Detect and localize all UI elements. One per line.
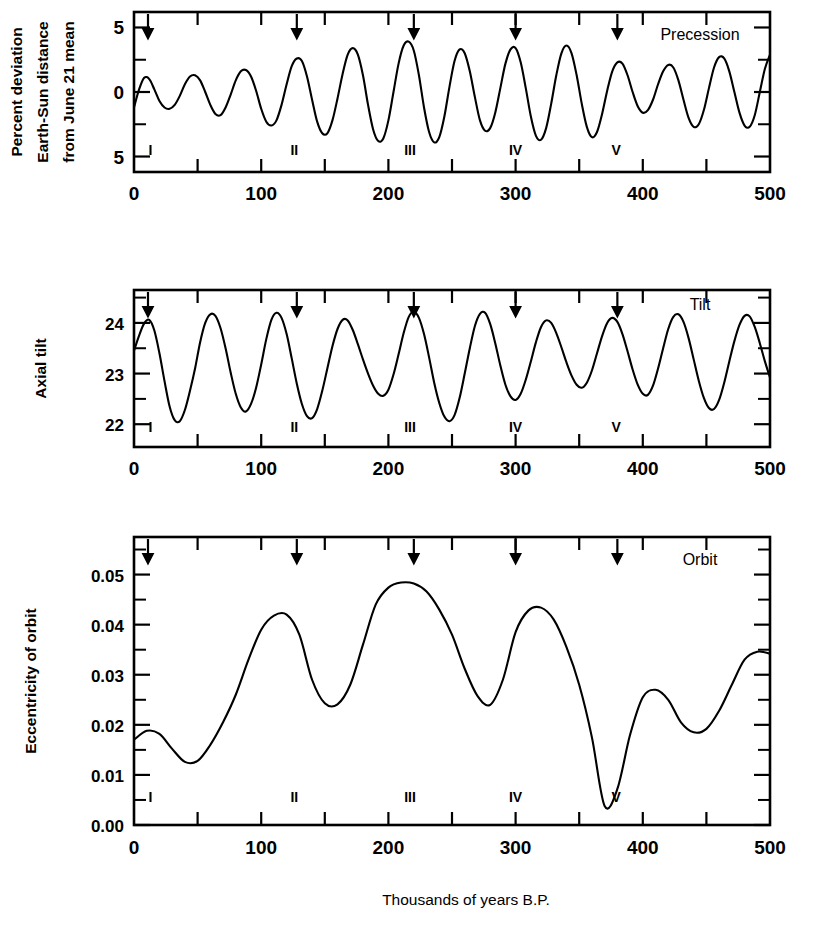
stage-label-tilt-II: II <box>290 419 298 435</box>
stage-arrow-head-precession-1 <box>143 29 152 38</box>
y-axis-title-precession-line-3: from June 21 mean <box>60 21 77 162</box>
stage-label-tilt-V: V <box>611 419 621 435</box>
x-tick-label-precession-0: 0 <box>129 183 140 204</box>
stage-arrow-head-orbit-5 <box>613 554 622 563</box>
y-axis-title-precession-line-2: Earth-Sun distance <box>34 21 51 163</box>
stage-label-tilt-IV: IV <box>509 419 523 435</box>
x-tick-label-tilt-500: 500 <box>754 458 786 479</box>
y-tick-label-precession-1: 0 <box>113 82 124 103</box>
x-tick-label-orbit-300: 300 <box>500 837 532 858</box>
stage-arrow-head-tilt-4 <box>511 307 520 316</box>
data-curve-precession <box>134 41 770 142</box>
y-tick-label-tilt-1: 23 <box>105 366 124 385</box>
stage-arrow-head-precession-5 <box>613 29 622 38</box>
stage-label-orbit-V: V <box>611 789 621 805</box>
stage-label-precession-I: I <box>149 142 153 158</box>
stage-label-precession-V: V <box>611 142 621 158</box>
stage-arrow-head-precession-3 <box>409 29 418 38</box>
x-tick-label-orbit-500: 500 <box>754 837 786 858</box>
stage-label-orbit-III: III <box>404 789 416 805</box>
x-tick-label-tilt-400: 400 <box>627 458 659 479</box>
plot-frame-orbit <box>134 537 770 825</box>
y-tick-label-precession-2: 5 <box>113 147 124 168</box>
y-tick-label-tilt-2: 22 <box>105 416 124 435</box>
x-tick-label-precession-300: 300 <box>500 183 532 204</box>
stage-label-precession-III: III <box>404 142 416 158</box>
y-tick-label-orbit-2: 0.03 <box>91 667 124 686</box>
stage-arrow-head-tilt-1 <box>143 307 152 316</box>
panel-title-precession: Precession <box>660 26 739 43</box>
stage-arrow-head-tilt-5 <box>613 307 622 316</box>
panel-title-orbit: Orbit <box>683 551 718 568</box>
y-axis-title-orbit: Eccentricity of orbit <box>22 608 39 754</box>
stage-arrow-head-orbit-3 <box>409 554 418 563</box>
stage-arrow-head-orbit-2 <box>292 554 301 563</box>
panel-title-tilt: Tilt <box>690 296 711 313</box>
x-tick-label-orbit-0: 0 <box>129 837 140 858</box>
x-tick-label-tilt-300: 300 <box>500 458 532 479</box>
y-tick-label-orbit-3: 0.02 <box>91 717 124 736</box>
stage-label-orbit-II: II <box>290 789 298 805</box>
y-tick-label-orbit-5: 0.00 <box>91 817 124 836</box>
milankovitch-cycles-figure: 0100200300400500505IIIIIIIVVPrecession01… <box>0 0 831 938</box>
x-tick-label-precession-400: 400 <box>627 183 659 204</box>
y-tick-label-precession-0: 5 <box>113 17 124 38</box>
figure-canvas: 0100200300400500505IIIIIIIVVPrecession01… <box>0 0 831 938</box>
x-tick-label-precession-500: 500 <box>754 183 786 204</box>
x-tick-label-precession-200: 200 <box>373 183 405 204</box>
stage-arrow-head-precession-2 <box>292 29 301 38</box>
stage-label-orbit-I: I <box>149 789 153 805</box>
y-axis-title-precession-line-1: Percent deviation <box>8 27 25 156</box>
stage-label-tilt-I: I <box>149 419 153 435</box>
x-tick-label-orbit-200: 200 <box>373 837 405 858</box>
y-tick-label-orbit-0: 0.05 <box>91 567 124 586</box>
stage-label-orbit-IV: IV <box>509 789 523 805</box>
stage-arrow-head-orbit-1 <box>143 554 152 563</box>
data-curve-orbit <box>134 582 770 808</box>
stage-label-tilt-III: III <box>404 419 416 435</box>
y-tick-label-tilt-0: 24 <box>105 315 124 334</box>
stage-label-precession-IV: IV <box>509 142 523 158</box>
x-tick-label-orbit-400: 400 <box>627 837 659 858</box>
y-axis-title-tilt: Axial tilt <box>32 338 49 398</box>
stage-arrow-head-tilt-2 <box>292 307 301 316</box>
stage-label-precession-II: II <box>290 142 298 158</box>
stage-arrow-head-precession-4 <box>511 29 520 38</box>
y-tick-label-orbit-4: 0.01 <box>91 767 124 786</box>
stage-arrow-head-orbit-4 <box>511 554 520 563</box>
x-tick-label-orbit-100: 100 <box>245 837 277 858</box>
x-tick-label-tilt-100: 100 <box>245 458 277 479</box>
x-tick-label-precession-100: 100 <box>245 183 277 204</box>
x-axis-title: Thousands of years B.P. <box>382 891 550 908</box>
x-tick-label-tilt-0: 0 <box>129 458 140 479</box>
y-tick-label-orbit-1: 0.04 <box>91 617 125 636</box>
data-curve-tilt <box>134 312 770 422</box>
x-tick-label-tilt-200: 200 <box>373 458 405 479</box>
